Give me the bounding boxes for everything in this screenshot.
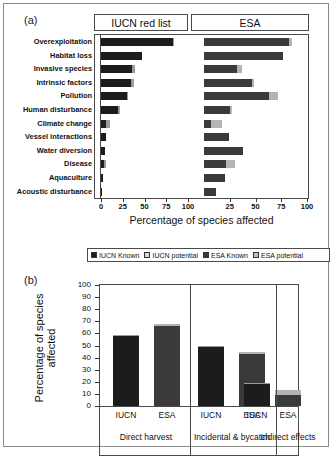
bar-segment-esa-potential xyxy=(289,38,291,46)
panel-b-bar xyxy=(154,324,180,406)
panel-b-y-tick-label: 60 xyxy=(65,328,91,337)
panel-b-y-tick-label: 20 xyxy=(65,377,91,386)
bar-segment-esa-known xyxy=(204,38,289,46)
bar-segment-iucn-potential xyxy=(132,65,135,73)
legend-swatch xyxy=(144,252,150,258)
panel-a-bar-iucn xyxy=(101,160,106,168)
bar-segment-known xyxy=(244,384,270,406)
panel-a-row: Overexploitation xyxy=(4,35,330,49)
panel-a-category-label: Water diversion xyxy=(4,144,92,158)
panel-a-bar-esa xyxy=(204,65,242,73)
panel-a-bar-esa xyxy=(204,92,278,100)
legend-item: ESA potential xyxy=(253,252,303,259)
legend-item: IUCN potential xyxy=(144,252,198,259)
panel-a-x-tick-label: 50 xyxy=(140,202,148,211)
bar-segment-esa-known xyxy=(204,52,283,60)
bar-segment-known xyxy=(154,326,180,406)
panel-b-group-label: Incidental & bycatch xyxy=(194,432,270,442)
legend-swatch xyxy=(91,252,97,258)
panel-a-row: Disease xyxy=(4,157,330,171)
panel-b-group-label: Indirect effects xyxy=(260,432,315,442)
chart-legend: IUCN KnownIUCN potentialESA KnownESA pot… xyxy=(87,248,330,262)
panel-a-bar-iucn xyxy=(101,65,135,73)
panel-b-y-tick xyxy=(95,297,99,298)
panel-a-bar-esa xyxy=(204,160,235,168)
bar-segment-esa-potential xyxy=(237,65,242,73)
panel-a-category-label: Disease xyxy=(4,157,92,171)
panel-b-y-tick-label: 10 xyxy=(65,389,91,398)
legend-label: IUCN Known xyxy=(99,252,139,259)
panel-b-y-tick xyxy=(95,285,99,286)
panel-a-bar-iucn xyxy=(101,174,103,182)
panel-a-row: Vessel interactions xyxy=(4,130,330,144)
panel-a-category-label: Pollution xyxy=(4,89,92,103)
panel-a-category-label: Intrinsic factors xyxy=(4,76,92,90)
bar-segment-iucn-potential xyxy=(173,38,174,46)
panel-a-bar-esa xyxy=(204,52,283,60)
panel-a-bar-iucn xyxy=(101,52,142,60)
bar-segment-iucn-known xyxy=(101,133,106,141)
panel-b-y-tick xyxy=(95,370,99,371)
bar-segment-iucn-potential xyxy=(127,92,128,100)
bar-segment-esa-known xyxy=(204,120,211,128)
panel-a-x-tick-label: 100 xyxy=(182,202,195,211)
legend-item: ESA Known xyxy=(203,252,248,259)
panel-a-x-tick-label: 25 xyxy=(119,202,127,211)
panel-a-row: Human disturbance xyxy=(4,103,330,117)
bar-segment-known xyxy=(275,395,301,406)
bar-segment-iucn-potential xyxy=(118,106,120,114)
panel-a-row: Intrinsic factors xyxy=(4,76,330,90)
bar-segment-esa-known xyxy=(204,160,226,168)
bar-segment-esa-known xyxy=(204,92,269,100)
panel-a-row: Climate change xyxy=(4,117,330,131)
bar-segment-iucn-potential xyxy=(106,120,109,128)
panel-a-bar-iucn xyxy=(101,92,128,100)
panel-a-bar-iucn xyxy=(101,133,106,141)
panel-a-bar-iucn xyxy=(101,106,120,114)
panel-b-y-tick xyxy=(95,382,99,383)
panel-a-row: Acoustic disturbance xyxy=(4,185,330,199)
panel-a-category-label: Aquaculture xyxy=(4,171,92,185)
panel-a-bar-esa xyxy=(204,106,232,114)
legend-label: ESA potential xyxy=(261,252,303,259)
panel-b-group-label: Direct harvest xyxy=(120,432,172,442)
panel-b-y-tick-label: 40 xyxy=(65,353,91,362)
panel-b-group-divider xyxy=(190,284,191,456)
panel-a-row: Habitat loss xyxy=(4,49,330,63)
panel-b-baseline xyxy=(99,406,299,407)
panel-a-row: Pollution xyxy=(4,89,330,103)
figure-panel: (a) IUCN red list ESA OverexploitationHa… xyxy=(3,3,329,447)
bar-segment-known xyxy=(198,347,224,406)
panel-b-y-tick-label: 50 xyxy=(65,341,91,350)
panel-b-y-tick xyxy=(95,406,99,407)
panel-b-y-tick-label: 90 xyxy=(65,292,91,301)
panel-a-x-tick-label: 75 xyxy=(162,202,170,211)
panel-b-chart: (b) Percentage of species affected 10090… xyxy=(4,266,330,448)
panel-b-y-axis-title: Percentage of species affected xyxy=(33,273,57,423)
panel-a-row: Invasive species xyxy=(4,62,330,76)
bar-segment-esa-known xyxy=(204,147,243,155)
panel-a-x-tick-label: 0 xyxy=(99,202,103,211)
panel-a-header-esa: ESA xyxy=(191,14,309,31)
panel-b-y-tick xyxy=(95,321,99,322)
panel-a-label: (a) xyxy=(24,14,37,26)
panel-a-bar-esa xyxy=(204,147,243,155)
panel-a-row: Aquaculture xyxy=(4,171,330,185)
panel-a-row: Water diversion xyxy=(4,144,330,158)
bar-segment-iucn-known xyxy=(101,38,173,46)
bar-segment-iucn-known xyxy=(101,65,132,73)
panel-b-y-tick-label: 80 xyxy=(65,304,91,313)
panel-a-chart: (a) IUCN red list ESA OverexploitationHa… xyxy=(4,4,330,244)
panel-a-bar-iucn xyxy=(101,147,105,155)
panel-a-category-label: Vessel interactions xyxy=(4,130,92,144)
panel-b-bar xyxy=(275,390,301,406)
bar-segment-esa-potential xyxy=(211,120,221,128)
bar-segment-esa-known xyxy=(204,79,252,87)
panel-a-bar-esa xyxy=(204,133,229,141)
panel-b-y-tick-label: 0 xyxy=(65,401,91,410)
panel-a-bar-iucn xyxy=(101,120,110,128)
panel-b-y-tick xyxy=(95,333,99,334)
legend-swatch xyxy=(203,252,209,258)
bar-segment-esa-potential xyxy=(226,160,235,168)
panel-b-y-tick xyxy=(95,394,99,395)
